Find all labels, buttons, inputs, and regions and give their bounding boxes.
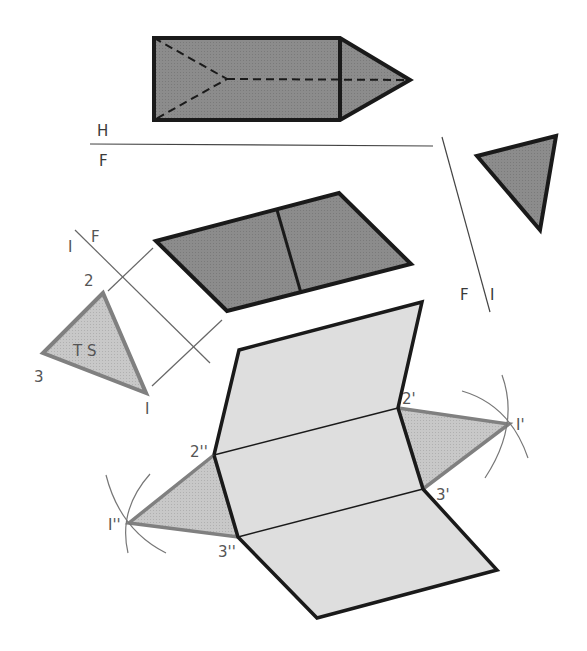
label-F-fi: F — [460, 286, 469, 304]
label-1-double-prime: I'' — [108, 516, 121, 534]
front-view — [156, 193, 411, 311]
hf-reference-line — [90, 144, 433, 146]
prism-development-diagram: H F F I I F T S 2 3 I — [0, 0, 587, 651]
label-3-double-prime: 3'' — [218, 543, 236, 561]
front-view-body — [156, 193, 411, 311]
label-fold-1: I — [68, 238, 72, 256]
top-view — [154, 38, 410, 120]
label-F: F — [99, 152, 108, 170]
label-fold-F: F — [91, 228, 100, 246]
auxiliary-end-view-triangle — [477, 136, 556, 230]
label-1-prime: I' — [516, 416, 525, 434]
label-I-fi: I — [490, 286, 494, 304]
vertex-label-3: 3 — [34, 368, 44, 386]
label-2-double-prime: 2'' — [190, 443, 208, 461]
vertex-label-2: 2 — [84, 272, 94, 290]
label-3-prime: 3' — [436, 486, 450, 504]
projection-line-lower — [152, 320, 222, 386]
vertex-label-1: I — [145, 400, 149, 418]
label-2-prime: 2' — [402, 390, 416, 408]
label-H: H — [97, 122, 108, 140]
development: I' 2' 3' I'' 2'' 3'' — [106, 302, 528, 618]
label-TS: T S — [72, 342, 96, 360]
